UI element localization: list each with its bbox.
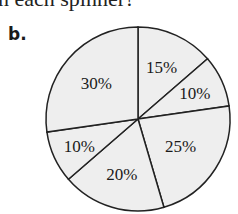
slice-percent-label: 10%: [179, 84, 210, 103]
pie-slices: [46, 27, 230, 211]
pie-chart: 15%10%25%20%10%30%: [0, 0, 238, 214]
slice-percent-label: 30%: [81, 74, 112, 93]
slice-percent-label: 20%: [106, 165, 137, 184]
slice-percent-label: 15%: [146, 58, 177, 77]
slice-percent-label: 25%: [165, 137, 196, 156]
slice-percent-label: 10%: [64, 137, 95, 156]
